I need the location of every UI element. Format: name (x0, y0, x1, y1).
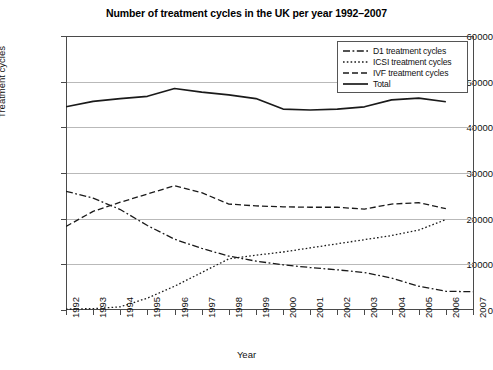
x-axis-tick-mark (473, 310, 474, 315)
legend-item: IVF treatment cycles (342, 67, 463, 78)
x-axis-tick-label: 1997 (206, 297, 217, 318)
y-axis-title: Treatment cycles (0, 46, 7, 118)
x-axis-tick-label: 1996 (179, 297, 190, 318)
x-axis-tick-mark (283, 310, 284, 315)
x-axis-tick-label: 1994 (124, 297, 135, 318)
x-axis-tick-mark (93, 310, 94, 315)
legend-line-swatch-icon (342, 47, 369, 55)
x-axis-tick-label: 2003 (368, 297, 379, 318)
x-axis-tick-mark (446, 310, 447, 315)
legend-item-label: D1 treatment cycles (373, 46, 446, 56)
x-axis-tick-label: 1998 (233, 297, 244, 318)
x-axis-tick-label: 2005 (423, 297, 434, 318)
x-axis-tick-mark (66, 310, 67, 315)
line-chart: Number of treatment cycles in the UK per… (0, 0, 493, 370)
legend-line-swatch-icon (342, 58, 369, 66)
legend-item-label: Total (373, 79, 390, 89)
x-axis-tick-mark (147, 310, 148, 315)
chart-title: Number of treatment cycles in the UK per… (0, 7, 493, 19)
x-axis-tick-label: 1992 (70, 297, 81, 318)
x-axis-tick-label: 1995 (151, 297, 162, 318)
x-axis-tick-label: 2004 (396, 297, 407, 318)
x-axis-tick-label: 2006 (450, 297, 461, 318)
x-axis-tick-mark (392, 310, 393, 315)
legend-item: Total (342, 78, 463, 89)
series-line (66, 220, 446, 310)
x-axis-tick-mark (364, 310, 365, 315)
chart-legend: D1 treatment cyclesICSI treatment cycles… (337, 41, 468, 93)
x-axis-tick-mark (120, 310, 121, 315)
x-axis-tick-label: 2000 (287, 297, 298, 318)
legend-item-label: IVF treatment cycles (373, 68, 448, 78)
x-axis-tick-mark (256, 310, 257, 315)
x-axis-tick-mark (175, 310, 176, 315)
x-axis-tick-mark (202, 310, 203, 315)
legend-item: D1 treatment cycles (342, 45, 463, 56)
legend-item: ICSI treatment cycles (342, 56, 463, 67)
x-axis-tick-label: 1993 (97, 297, 108, 318)
x-axis-tick-label: 2002 (341, 297, 352, 318)
x-axis-tick-label: 2001 (314, 297, 325, 318)
series-line (66, 186, 446, 227)
x-axis-tick-mark (419, 310, 420, 315)
x-axis-tick-mark (229, 310, 230, 315)
x-axis-tick-mark (310, 310, 311, 315)
legend-line-swatch-icon (342, 80, 369, 88)
x-axis-tick-mark (337, 310, 338, 315)
series-line (66, 191, 473, 291)
x-axis-tick-label: 1999 (260, 297, 271, 318)
x-axis-tick-label: 2007 (477, 297, 488, 318)
x-axis-title: Year (0, 349, 493, 360)
legend-item-label: ICSI treatment cycles (373, 57, 452, 67)
legend-line-swatch-icon (342, 69, 369, 77)
